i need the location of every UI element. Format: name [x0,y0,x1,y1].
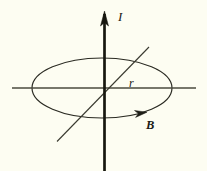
current-label: I [118,10,122,23]
physics-figure: I r B [0,0,207,171]
figure-canvas [0,0,207,171]
bfield-label: B [146,119,154,132]
radius-label: r [129,77,134,89]
